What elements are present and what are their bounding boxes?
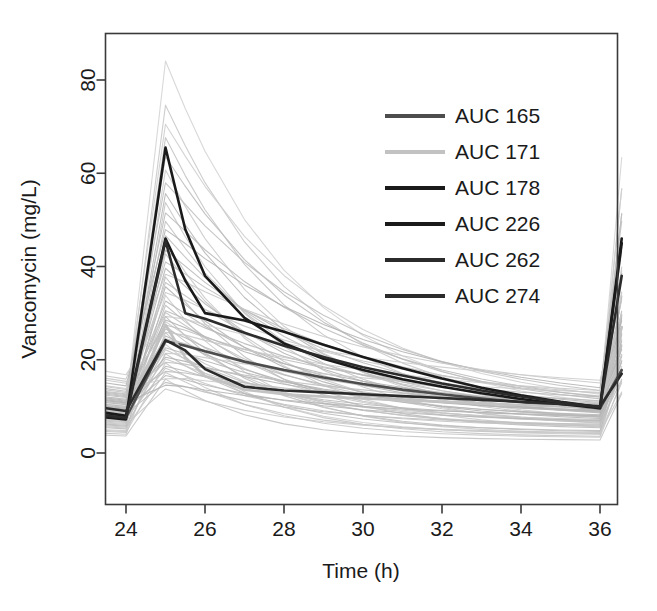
figure-background	[0, 0, 657, 611]
x-tick-label: 36	[588, 517, 611, 540]
legend-label: AUC 178	[455, 176, 540, 199]
x-tick-label: 34	[509, 517, 533, 540]
plot-canvas: 24262830323436 020406080 Time (h) Vancom…	[0, 0, 657, 611]
y-tick-label: 0	[76, 447, 99, 459]
y-tick-label: 80	[76, 68, 99, 91]
y-tick-label: 20	[76, 348, 99, 371]
legend-label: AUC 226	[455, 212, 540, 235]
x-tick-label: 30	[351, 517, 374, 540]
vancomycin-concentration-chart: 24262830323436 020406080 Time (h) Vancom…	[0, 0, 657, 611]
legend-label: AUC 165	[455, 104, 540, 127]
y-tick-label: 40	[76, 255, 99, 278]
y-axis-title: Vancomycin (mg/L)	[17, 179, 40, 358]
legend-label: AUC 262	[455, 248, 540, 271]
x-axis-title: Time (h)	[322, 559, 399, 582]
legend-label: AUC 171	[455, 140, 540, 163]
x-tick-label: 32	[430, 517, 453, 540]
x-tick-label: 28	[272, 517, 295, 540]
legend-label: AUC 274	[455, 284, 541, 307]
x-tick-label: 24	[114, 517, 138, 540]
x-tick-label: 26	[193, 517, 216, 540]
y-tick-label: 60	[76, 162, 99, 185]
